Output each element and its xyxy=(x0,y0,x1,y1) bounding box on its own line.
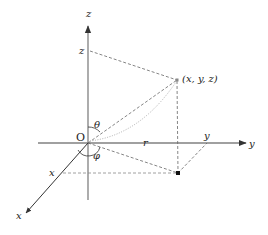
azimuth-line xyxy=(88,143,178,173)
x-tick-label: x xyxy=(49,167,55,178)
point-marker xyxy=(176,79,179,82)
point-label: (x, y, z) xyxy=(182,73,218,84)
y-axis-label: y xyxy=(248,138,255,149)
radius-arc xyxy=(90,82,176,141)
z-tick-label: z xyxy=(78,45,85,56)
vertical-drop-line xyxy=(177,81,178,173)
z-axis-label: z xyxy=(85,8,92,19)
phi-label: φ xyxy=(93,150,100,161)
y-tick-label: y xyxy=(203,130,210,141)
x-axis-label: x xyxy=(16,210,22,221)
projection-point xyxy=(176,171,180,175)
radius-line xyxy=(88,80,177,143)
origin-label: O xyxy=(76,131,85,144)
y-projection-line xyxy=(178,143,207,173)
spherical-coordinates-diagram: z y x z y x (x, y, z) O θ φ r xyxy=(0,0,268,235)
theta-label: θ xyxy=(94,119,100,130)
x-axis xyxy=(26,143,88,213)
z-projection-line xyxy=(90,51,177,80)
